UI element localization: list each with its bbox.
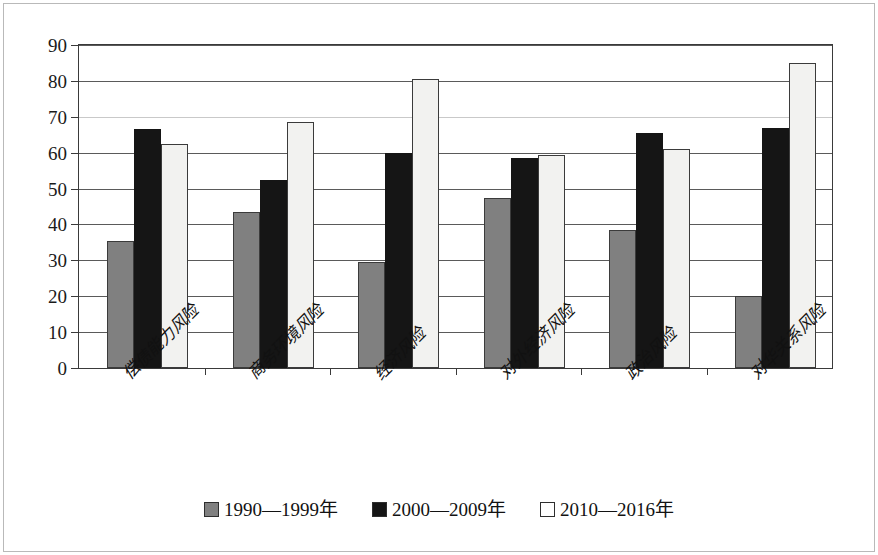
legend-label: 2010—2016年: [560, 500, 674, 519]
y-tick-90: [71, 45, 79, 46]
legend-item-2000-2009: 2000—2009年: [372, 500, 506, 519]
y-tick-70: [71, 117, 79, 118]
y-axis-label: 70: [48, 107, 67, 126]
y-axis-label: 80: [48, 71, 67, 90]
chart-figure: 0102030405060708090 偿债能力风险商务环境风险经济风险对外经济…: [0, 0, 878, 555]
y-tick-30: [71, 260, 79, 261]
gray-swatch-icon: [204, 502, 219, 517]
bar-group: [330, 45, 456, 368]
bar: [107, 241, 134, 368]
black-swatch-icon: [372, 502, 387, 517]
y-tick-20: [71, 296, 79, 297]
category-axis-labels: 偿债能力风险商务环境风险经济风险对外经济风险政治风险对华关系风险: [78, 372, 833, 492]
y-axis-label: 50: [48, 179, 67, 198]
y-tick-50: [71, 189, 79, 190]
bar: [358, 262, 385, 368]
legend-item-1990-1999: 1990—1999年: [204, 500, 338, 519]
white-swatch-icon: [540, 502, 555, 517]
legend-label: 1990—1999年: [224, 500, 338, 519]
legend-label: 2000—2009年: [392, 500, 506, 519]
y-tick-40: [71, 224, 79, 225]
chart-legend: 1990—1999年 2000—2009年 2010—2016年: [0, 500, 878, 519]
y-axis-label: 0: [58, 359, 68, 378]
y-axis-label: 10: [48, 323, 67, 342]
y-axis-label: 90: [48, 36, 67, 55]
y-axis-label: 60: [48, 143, 67, 162]
bar: [233, 212, 260, 368]
legend-item-2010-2016: 2010—2016年: [540, 500, 674, 519]
y-tick-80: [71, 81, 79, 82]
y-axis-label: 30: [48, 251, 67, 270]
bar-group: [581, 45, 707, 368]
y-tick-0: [71, 368, 79, 369]
bar: [609, 230, 636, 368]
bar: [484, 198, 511, 368]
y-tick-10: [71, 332, 79, 333]
y-axis-label: 40: [48, 215, 67, 234]
y-tick-60: [71, 153, 79, 154]
y-axis-label: 20: [48, 287, 67, 306]
